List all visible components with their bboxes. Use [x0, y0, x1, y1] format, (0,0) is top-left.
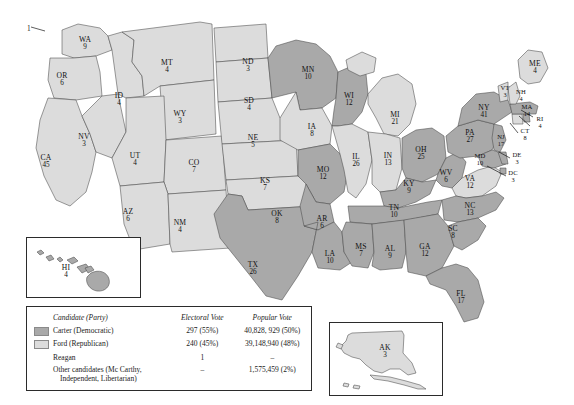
- legend-candidate-name-cont: Independent, Libertarian): [53, 374, 169, 383]
- legend-table: Candidate (Party) Electoral Vote Popular…: [27, 311, 311, 384]
- legend-swatch-header: [27, 311, 51, 325]
- state-sc: [448, 218, 486, 250]
- legend-electoral-cell: 297 (55%): [171, 325, 234, 338]
- legend-swatch-cell: [27, 338, 51, 351]
- state-fl: [426, 264, 484, 322]
- state-wa: [62, 24, 112, 58]
- legend-electoral-cell: 240 (45%): [171, 338, 234, 351]
- legend-candidate-name: Ford (Republican): [53, 339, 108, 348]
- legend-swatch-cell: [27, 351, 51, 363]
- faithless-elector-note: 1: [27, 24, 31, 33]
- legend-swatch-ford: [34, 340, 49, 349]
- hawaii-inset-svg: [27, 238, 140, 297]
- state-ks: [222, 140, 298, 180]
- state-me: [518, 50, 548, 84]
- legend-electoral-cell: –: [171, 363, 234, 384]
- state-wy: [160, 80, 216, 140]
- alaska-inset: [329, 322, 443, 396]
- legend-header-row: Candidate (Party) Electoral Vote Popular…: [27, 311, 311, 325]
- legend-swatch-carter: [34, 327, 49, 336]
- legend-popular-cell: 40,828, 929 (50%): [234, 325, 312, 338]
- legend-row: Reagan1–: [27, 351, 311, 363]
- legend-candidate-cell: Carter (Democratic): [51, 325, 171, 338]
- state-nh: [508, 82, 520, 104]
- state-al: [372, 220, 406, 270]
- legend-candidate-name: Carter (Democratic): [53, 326, 114, 335]
- state-sd: [216, 58, 272, 102]
- legend-candidate-cell: Ford (Republican): [51, 338, 171, 351]
- election-map: 1 WA9OR6CA45NV3ID4MT4WY3UT4AZ6CO7NM4ND3S…: [0, 0, 574, 405]
- legend-candidate-name: Reagan: [53, 353, 76, 362]
- legend-swatch-cell: [27, 363, 51, 384]
- state-vt: [498, 82, 508, 102]
- state-co: [164, 136, 226, 194]
- state-nj: [492, 124, 506, 152]
- legend-body: Carter (Democratic)297 (55%)40,828, 929 …: [27, 325, 311, 385]
- legend-electoral-header: Electoral Vote: [171, 311, 234, 325]
- state-or: [48, 56, 102, 100]
- alaska-inset-svg: [330, 323, 442, 395]
- legend-popular-header: Popular Vote: [234, 311, 312, 325]
- legend-popular-cell: 39,148,940 (48%): [234, 338, 312, 351]
- state-mi: [368, 74, 416, 136]
- legend-row: Ford (Republican)240 (45%)39,148,940 (48…: [27, 338, 311, 351]
- legend-panel: Candidate (Party) Electoral Vote Popular…: [26, 306, 312, 391]
- legend-candidate-header: Candidate (Party): [51, 311, 171, 325]
- legend-popular-cell: 1,575,459 (2%): [234, 363, 312, 384]
- legend-row: Carter (Democratic)297 (55%)40,828, 929 …: [27, 325, 311, 338]
- legend-row: Other candidates (Mc Carthy,Independent,…: [27, 363, 311, 384]
- legend-candidate-cell: Other candidates (Mc Carthy,Independent,…: [51, 363, 171, 384]
- legend-candidate-cell: Reagan: [51, 351, 171, 363]
- legend-swatch-cell: [27, 325, 51, 338]
- hawaii-inset: [26, 237, 141, 298]
- state-mn: [268, 40, 338, 110]
- state-nd: [214, 24, 268, 62]
- state-ct: [512, 114, 523, 124]
- legend-popular-cell: –: [234, 351, 312, 363]
- legend-electoral-cell: 1: [171, 351, 234, 363]
- legend-candidate-name: Other candidates (Mc Carthy,: [53, 365, 142, 374]
- state-in: [368, 132, 402, 192]
